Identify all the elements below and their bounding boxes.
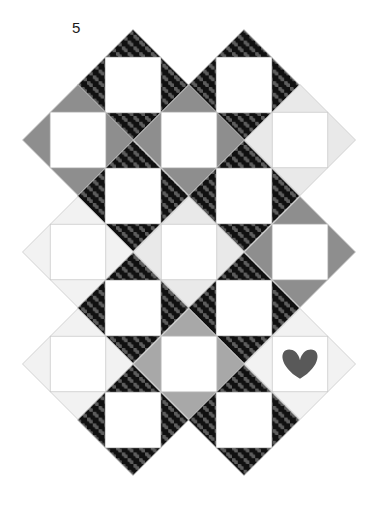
corner-triangle-s bbox=[105, 448, 161, 476]
block-center-square bbox=[216, 168, 272, 224]
corner-triangle-w bbox=[23, 224, 51, 280]
quilt-diagram bbox=[0, 0, 376, 515]
corner-triangle-w bbox=[23, 336, 51, 392]
block-center-square bbox=[161, 112, 217, 168]
block-center-square bbox=[216, 392, 272, 448]
corner-triangle-s bbox=[216, 448, 272, 476]
block-center-square bbox=[216, 57, 272, 113]
block-center-square bbox=[50, 224, 106, 280]
corner-triangle-e bbox=[328, 224, 356, 280]
block-center-square bbox=[161, 224, 217, 280]
corner-triangle-n bbox=[216, 30, 272, 58]
block-center-square bbox=[272, 112, 328, 168]
corner-triangle-e bbox=[328, 112, 356, 168]
corner-triangle-w bbox=[23, 112, 51, 168]
block-center-square bbox=[216, 280, 272, 336]
block-center-square bbox=[50, 336, 106, 392]
block-center-square bbox=[50, 112, 106, 168]
quilt-blocks-layer bbox=[23, 30, 356, 476]
block-center-square bbox=[105, 392, 161, 448]
corner-triangle-e bbox=[328, 336, 356, 392]
quilt-figure: 5 bbox=[0, 0, 376, 515]
corner-triangle-n bbox=[105, 30, 161, 58]
block-center-square bbox=[105, 280, 161, 336]
block-center-square bbox=[105, 57, 161, 113]
block-center-square bbox=[161, 336, 217, 392]
block-center-square bbox=[105, 168, 161, 224]
figure-number-label: 5 bbox=[72, 20, 81, 35]
block-center-square bbox=[272, 224, 328, 280]
